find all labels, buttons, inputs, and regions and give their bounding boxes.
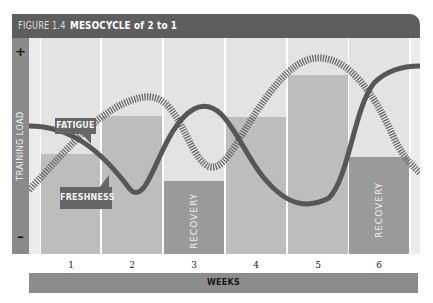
x-axis-label-bar: WEEKS	[29, 273, 418, 293]
minus-icon: –	[12, 229, 29, 244]
fatigue-callout-pointer	[81, 133, 93, 145]
recovery-label-week-3: RECOVERY	[189, 193, 199, 249]
edge-stripe-left	[29, 38, 40, 254]
y-axis-label: TRAINING LOAD	[16, 111, 25, 180]
fatigue-label: FATIGUE	[56, 121, 94, 130]
week-tick-4: 4	[226, 260, 286, 270]
bar-week-4	[226, 117, 286, 254]
plot-area: FATIGUE FRESHNESS RECOVERY RECOVERY	[29, 38, 420, 254]
week-tick-6: 6	[349, 260, 409, 270]
freshness-label: FRESHNESS	[60, 193, 115, 202]
chart-svg	[29, 38, 420, 254]
week-tick-3: 3	[164, 260, 224, 270]
bar-week-2	[102, 116, 162, 254]
figure-title-bar: FIGURE 1.4 MESOCYCLE of 2 to 1	[12, 14, 420, 38]
recovery-label-week-6: RECOVERY	[374, 182, 384, 238]
freshness-callout: FRESHNESS	[60, 187, 112, 209]
week-tick-5: 5	[288, 260, 348, 270]
bar-week-5	[288, 75, 348, 254]
figure-number: FIGURE 1.4	[18, 14, 66, 38]
week-tick-2: 2	[102, 260, 162, 270]
week-tick-1: 1	[41, 260, 101, 270]
plus-icon: +	[12, 44, 29, 59]
figure-title: MESOCYCLE of 2 to 1	[70, 14, 177, 38]
freshness-callout-pointer	[99, 175, 111, 188]
fatigue-callout: FATIGUE	[55, 118, 96, 134]
edge-stripe-right	[411, 38, 420, 254]
x-axis-label: WEEKS	[207, 278, 240, 287]
y-axis: + TRAINING LOAD –	[12, 38, 29, 254]
